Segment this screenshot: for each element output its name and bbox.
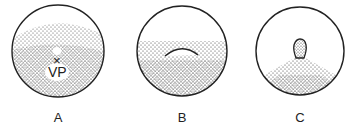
- panel-b-disc: [130, 6, 235, 100]
- vp-label: VP: [48, 64, 67, 80]
- panel-label-b: B: [172, 110, 192, 125]
- panel-label-c: C: [290, 110, 310, 125]
- panel-c-disc: [255, 7, 345, 100]
- panel-label-a: A: [48, 110, 68, 125]
